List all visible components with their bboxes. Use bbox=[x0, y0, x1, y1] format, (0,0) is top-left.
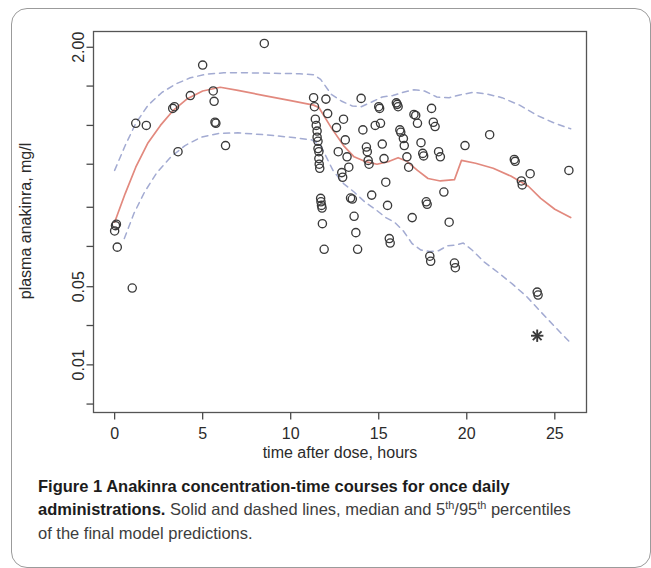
data-point bbox=[132, 119, 140, 127]
y-tick-label: 0.05 bbox=[70, 271, 87, 302]
data-point bbox=[199, 61, 207, 69]
data-point bbox=[341, 136, 349, 144]
x-tick-label: 5 bbox=[198, 425, 207, 442]
data-point bbox=[357, 94, 365, 102]
percentile-prediction-line bbox=[124, 133, 570, 343]
median-prediction-line bbox=[115, 87, 571, 222]
caption-figure-label: Figure 1 bbox=[38, 477, 102, 495]
x-tick-label: 20 bbox=[458, 425, 476, 442]
data-point bbox=[435, 148, 443, 156]
data-point bbox=[427, 257, 435, 265]
data-point bbox=[352, 229, 360, 237]
y-tick-label: 0.01 bbox=[70, 349, 87, 380]
x-tick-label: 25 bbox=[546, 425, 564, 442]
x-tick-label: 0 bbox=[110, 425, 119, 442]
data-point bbox=[350, 212, 358, 220]
observed-data-points bbox=[111, 39, 573, 299]
x-tick-label: 15 bbox=[370, 425, 388, 442]
data-point bbox=[309, 94, 317, 102]
data-point bbox=[486, 131, 494, 139]
x-axis-title: time after dose, hours bbox=[263, 444, 418, 461]
x-tick-label: 10 bbox=[282, 425, 300, 442]
percentile-lines bbox=[115, 73, 571, 343]
data-point bbox=[322, 95, 330, 103]
data-point bbox=[359, 126, 367, 134]
data-point bbox=[318, 220, 326, 228]
data-point bbox=[376, 119, 384, 127]
data-point bbox=[403, 153, 411, 161]
caption-text-part1: Solid and dashed lines, median and 5 bbox=[165, 500, 445, 518]
data-point bbox=[383, 201, 391, 209]
data-point bbox=[221, 141, 229, 149]
data-point bbox=[408, 214, 416, 222]
data-point bbox=[371, 121, 379, 129]
data-point bbox=[440, 188, 448, 196]
data-point bbox=[354, 245, 362, 253]
data-point bbox=[334, 148, 342, 156]
y-axis-tick-labels: 2.000.050.01 bbox=[70, 32, 87, 381]
x-axis-ticks bbox=[115, 413, 555, 420]
bql-markers bbox=[531, 330, 543, 342]
data-point bbox=[324, 109, 332, 117]
plot-area: 2.000.050.01 0510152025 time after dose,… bbox=[0, 0, 604, 470]
y-axis-ticks bbox=[87, 47, 94, 404]
data-point bbox=[461, 141, 469, 149]
median-line bbox=[115, 87, 571, 222]
asterisk-marker bbox=[531, 330, 543, 342]
x-axis-tick-labels: 0510152025 bbox=[110, 425, 564, 442]
data-point bbox=[405, 163, 413, 171]
data-point bbox=[142, 121, 150, 129]
data-point bbox=[113, 243, 121, 251]
data-point bbox=[363, 148, 371, 156]
data-point bbox=[526, 170, 534, 178]
data-point bbox=[339, 115, 347, 123]
data-point bbox=[565, 166, 573, 174]
data-point bbox=[320, 245, 328, 253]
data-point bbox=[260, 39, 268, 47]
concentration-time-scatter-plot: 2.000.050.01 0510152025 time after dose,… bbox=[0, 0, 604, 470]
data-point bbox=[343, 153, 351, 161]
data-point bbox=[445, 218, 453, 226]
data-point bbox=[380, 154, 388, 162]
data-point bbox=[382, 178, 390, 186]
y-axis-title: plasma anakinra, mg/l bbox=[17, 143, 34, 300]
caption-text-slash: /95 bbox=[454, 500, 477, 518]
data-point bbox=[378, 140, 386, 148]
data-point bbox=[128, 284, 136, 292]
caption-sup-5th: th bbox=[445, 499, 454, 511]
data-point bbox=[345, 163, 353, 171]
data-point bbox=[332, 124, 340, 132]
data-point bbox=[417, 139, 425, 147]
data-point bbox=[427, 104, 435, 112]
figure-caption: Figure 1 Anakinra concentration-time cou… bbox=[38, 475, 578, 545]
data-point bbox=[368, 191, 376, 199]
data-point bbox=[436, 153, 444, 161]
caption-sup-95th: th bbox=[477, 499, 486, 511]
y-tick-label: 2.00 bbox=[70, 32, 87, 63]
data-point bbox=[210, 97, 218, 105]
data-point bbox=[413, 119, 421, 127]
